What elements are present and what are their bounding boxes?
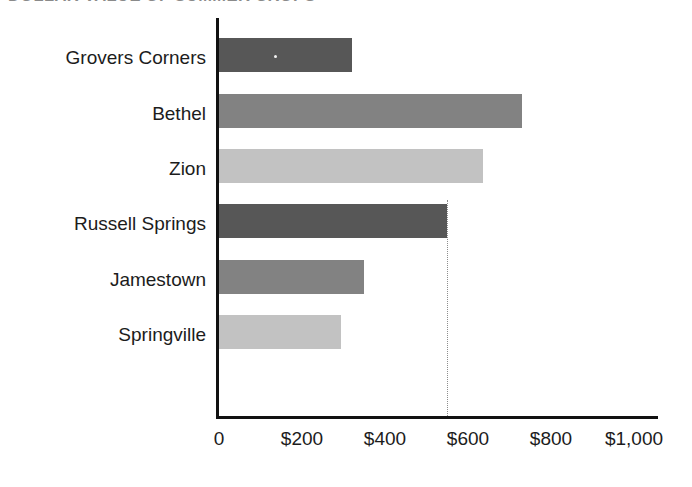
x-tick-label-1000: $1,000: [605, 428, 663, 450]
category-label-bethel: Bethel: [0, 104, 206, 123]
x-tick-label-400: $400: [364, 428, 406, 450]
x-tick-label-600: $600: [447, 428, 489, 450]
x-tick-label-200: $200: [281, 428, 323, 450]
bar-chart-plot-area: Grovers Corners Bethel Zion Russell Spri…: [0, 0, 692, 487]
category-label-springville: Springville: [0, 325, 206, 344]
x-axis-line: [216, 416, 658, 419]
x-tick-label-0: 0: [214, 428, 225, 450]
image-artifact-speck: [274, 55, 277, 58]
x-tick-label-800: $800: [530, 428, 572, 450]
bar-zion[interactable]: [219, 149, 483, 183]
bar-bethel[interactable]: [219, 94, 522, 128]
category-label-grovers-corners: Grovers Corners: [0, 48, 206, 67]
bar-russell-springs[interactable]: [219, 204, 447, 238]
category-label-russell-springs: Russell Springs: [0, 214, 206, 233]
category-label-jamestown: Jamestown: [0, 270, 206, 289]
category-label-zion: Zion: [0, 159, 206, 178]
bar-jamestown[interactable]: [219, 260, 364, 294]
reference-dotted-line: [447, 200, 449, 416]
bar-grovers-corners[interactable]: [219, 38, 352, 72]
bar-springville[interactable]: [219, 315, 341, 349]
